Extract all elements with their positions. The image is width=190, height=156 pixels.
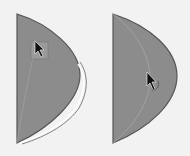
d-shape-before xyxy=(17,14,80,143)
panel-before xyxy=(17,14,86,144)
panel-after xyxy=(113,14,177,143)
diagram-stage: Original curve with dragged preview outl… xyxy=(0,0,190,156)
cursor-arrow-icon xyxy=(31,41,48,59)
diagram-svg xyxy=(0,0,190,156)
d-shape-after xyxy=(113,14,177,143)
